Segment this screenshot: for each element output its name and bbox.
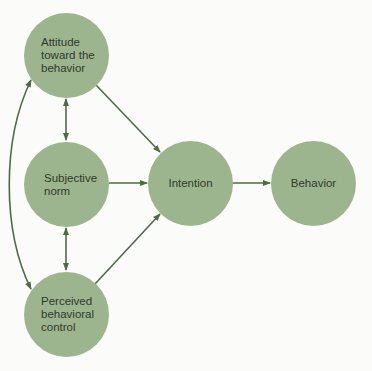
arrow-control-to-intention: [95, 214, 160, 284]
arrow-attitude-to-intention: [96, 85, 160, 152]
node-behavior-label: Behavior: [291, 177, 336, 190]
node-attitude: Attitude toward the behavior: [24, 13, 109, 98]
node-subjective-norm-label: Subjective norm: [44, 172, 97, 198]
node-perceived-control-label: Perceived behavioral control: [41, 295, 94, 334]
node-intention-label: Intention: [168, 177, 212, 190]
node-behavior: Behavior: [271, 141, 356, 226]
node-attitude-label: Attitude toward the behavior: [41, 36, 95, 75]
node-intention: Intention: [148, 141, 233, 226]
node-perceived-control: Perceived behavioral control: [24, 272, 109, 357]
node-subjective-norm: Subjective norm: [24, 142, 109, 227]
